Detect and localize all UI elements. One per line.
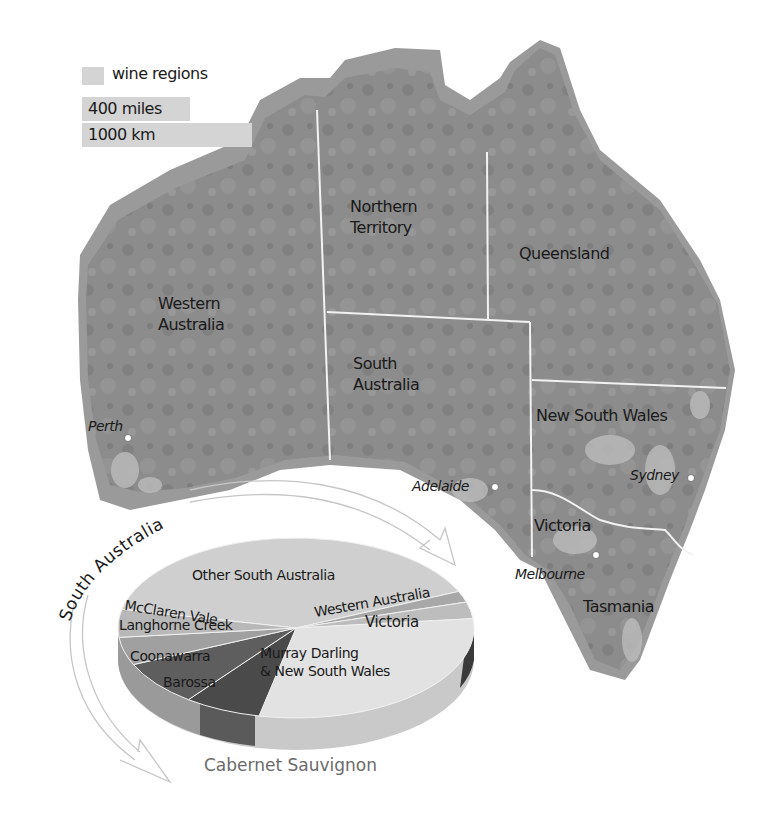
pie-label-murray-darling-2: & New South Wales (260, 663, 390, 680)
pie-label-victoria: Victoria (365, 614, 419, 631)
australia-wine-map: wine regions 400 miles 1000 km Northern … (0, 0, 779, 822)
pie-label-coonawarra: Coonawarra (130, 648, 210, 665)
pie-label-other-south-australia: Other South Australia (192, 567, 335, 584)
pie-label-langhorne-creek: Langhorne Creek (119, 617, 233, 634)
pie-label-barossa: Barossa (163, 674, 216, 691)
pie-label-murray-darling-1: Murray Darling (260, 645, 359, 662)
pie-title: Cabernet Sauvignon (204, 755, 377, 775)
pie-chart (0, 0, 779, 822)
